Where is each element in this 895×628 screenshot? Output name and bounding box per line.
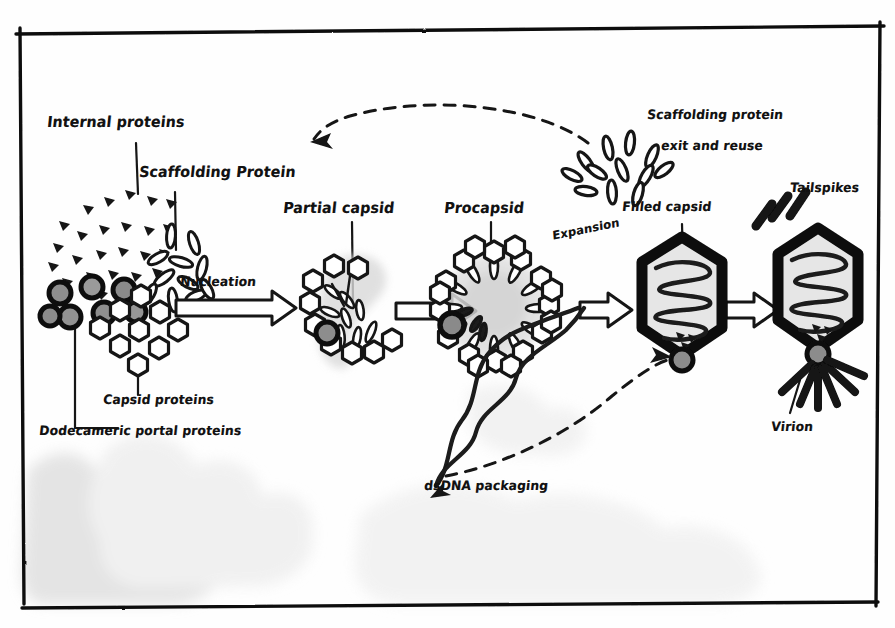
label-virion: Virion	[770, 420, 813, 435]
scaffolding-recycle-arrow	[310, 105, 588, 149]
partial-capsid-structure	[301, 255, 402, 369]
filled-capsid-portal	[671, 349, 693, 371]
procapsid-structure	[431, 236, 562, 377]
diagram-svg	[0, 0, 895, 628]
virion-structure	[756, 192, 864, 408]
procapsid-portal	[440, 313, 464, 337]
label-scaffolding-protein: Scaffolding Protein	[138, 164, 296, 181]
label-scaffolding-exit-line1: Scaffolding protein	[646, 108, 783, 123]
label-dsdna-packaging: dsDNA packaging	[423, 479, 548, 494]
tailspikes-free	[756, 192, 806, 226]
expansion-arrow	[580, 293, 632, 327]
leader-internal-proteins	[136, 143, 138, 194]
label-filled-capsid: Filled capsid	[621, 200, 712, 215]
maturation-arrow	[726, 293, 778, 327]
label-procapsid: Procapsid	[443, 200, 525, 217]
label-tailspikes: Tailspikes	[789, 181, 859, 196]
label-internal-proteins: Internal proteins	[46, 114, 185, 131]
label-dodecameric-portal-proteins: Dodecameric portal proteins	[38, 424, 242, 439]
scaffolding-exit-cluster	[560, 131, 675, 207]
watercolor-wash	[22, 385, 761, 604]
figure-canvas: Internal proteins Scaffolding Protein Nu…	[0, 0, 895, 628]
label-partial-capsid: Partial capsid	[282, 200, 395, 217]
label-nucleation: Nucleation	[179, 275, 256, 290]
label-capsid-proteins: Capsid proteins	[102, 393, 214, 408]
label-scaffolding-exit-line2: exit and reuse	[660, 139, 763, 154]
partial-capsid-portal	[316, 322, 338, 344]
